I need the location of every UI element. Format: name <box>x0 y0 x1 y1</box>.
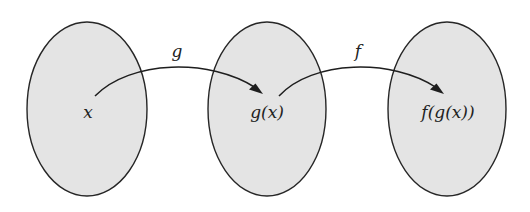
arrow-f-label: f <box>353 41 364 61</box>
composition-diagram: g f x g(x) f(g(x)) <box>0 0 530 212</box>
arrow-g-label: g <box>172 41 183 61</box>
element-gx-label: g(x) <box>250 102 284 122</box>
element-fgx-label: f(g(x)) <box>419 102 474 122</box>
element-x-label: x <box>83 102 93 122</box>
